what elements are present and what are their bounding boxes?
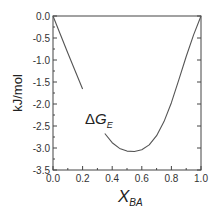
annotation-delta: Δ — [85, 110, 95, 127]
y-tick-label: -1.0 — [33, 55, 51, 66]
series-line — [105, 16, 201, 152]
y-tick-label: -0.5 — [33, 33, 51, 44]
x-tick-label: 0.0 — [46, 173, 60, 184]
series-layer — [53, 16, 201, 152]
plot-frame — [53, 16, 201, 170]
x-axis-ticks: 0.00.20.40.60.81.0 — [46, 166, 208, 184]
x-axis-title-main: X — [117, 187, 130, 206]
annotation-sub: E — [107, 120, 114, 130]
y-tick-label: -3.0 — [33, 143, 51, 154]
y-tick-label: 0.0 — [36, 11, 50, 22]
y-tick-label: -1.5 — [33, 77, 51, 88]
x-tick-label: 0.4 — [105, 173, 119, 184]
x-tick-label: 0.8 — [164, 173, 178, 184]
y-tick-label: -2.0 — [33, 99, 51, 110]
x-tick-label: 0.6 — [135, 173, 149, 184]
x-axis-title-sub: BA — [129, 197, 143, 208]
series-line — [53, 16, 83, 89]
chart: 0.0-0.5-1.0-1.5-2.0-2.5-3.0-3.5 0.00.20.… — [0, 0, 218, 212]
y-tick-label: -2.5 — [33, 121, 51, 132]
x-tick-label: 0.2 — [76, 173, 90, 184]
x-tick-label: 1.0 — [194, 173, 208, 184]
y-axis-ticks: 0.0-0.5-1.0-1.5-2.0-2.5-3.0-3.5 — [33, 11, 201, 176]
curve-annotation: ΔGE — [85, 110, 114, 130]
y-axis-title: kJ/mol — [10, 74, 25, 112]
annotation-main: G — [95, 110, 107, 127]
x-axis-title: XBA — [117, 187, 143, 208]
